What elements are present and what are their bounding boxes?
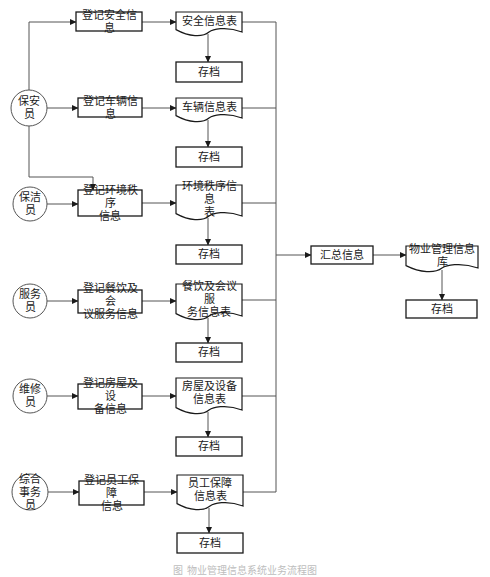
document-label: 物业管理信息库 <box>406 246 478 266</box>
flow-line <box>242 22 276 492</box>
process-label: 登记安全信息 <box>76 12 142 31</box>
archive-label: 存档 <box>176 343 242 362</box>
process-label: 登记车辆信息 <box>78 98 142 117</box>
flow-arrow <box>29 22 76 90</box>
archive-label: 存档 <box>176 437 242 456</box>
actor-label: 保安员 <box>11 90 47 126</box>
process-label: 登记餐饮及会 议服务信息 <box>78 290 142 313</box>
figure-caption: 图 物业管理信息系统业务流程图 <box>0 562 490 577</box>
archive-label: 存档 <box>176 62 242 82</box>
process-label: 汇总信息 <box>311 246 373 264</box>
flow-arrow <box>29 126 93 190</box>
archive-label: 存档 <box>176 147 242 167</box>
document-label: 车辆信息表 <box>176 98 242 116</box>
document-label: 员工保障 信息表 <box>177 475 243 504</box>
archive-label: 存档 <box>406 300 477 318</box>
process-label: 登记房屋及设 备信息 <box>78 384 142 409</box>
archive-label: 存档 <box>177 533 243 553</box>
actor-label: 综合 事务员 <box>12 474 48 510</box>
document-label: 环境秩序信息 表 <box>176 185 242 214</box>
document-label: 餐饮及会议服 务信息表 <box>176 284 242 314</box>
actor-label: 服务员 <box>13 284 47 318</box>
process-label: 登记环境秩序 信息 <box>78 190 142 216</box>
actor-label: 维修员 <box>13 379 47 413</box>
process-label: 登记员工保障 信息 <box>79 481 144 505</box>
archive-label: 存档 <box>176 245 242 264</box>
document-label: 安全信息表 <box>176 12 242 30</box>
actor-label: 保洁员 <box>13 187 47 221</box>
document-label: 房屋及设备 信息表 <box>176 378 242 408</box>
